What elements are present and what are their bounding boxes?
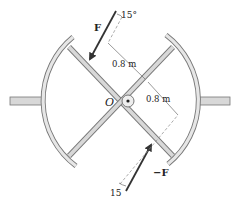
right-shaft (198, 97, 230, 105)
left-shaft (10, 97, 43, 105)
force-top-label: F (94, 22, 101, 33)
center-label: O (105, 96, 114, 109)
left-arc (43, 37, 76, 166)
force-top-angle: 15° (121, 10, 137, 20)
force-bottom-angle: 15 (110, 188, 122, 198)
force-bottom-label: −F (153, 167, 168, 178)
hub-pivot (122, 95, 134, 107)
dimension-label-2: 0.8 m (146, 94, 170, 104)
right-arc (166, 35, 198, 164)
wheel-diagram: O F 15° 0.8 m 0.8 m −F 15 (0, 0, 236, 209)
dimension-label-1: 0.8 m (112, 59, 136, 69)
